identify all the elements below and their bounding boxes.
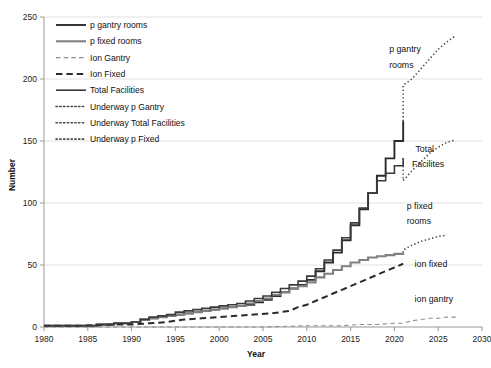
series-line <box>44 121 403 326</box>
chart-annotation: rooms <box>389 60 414 70</box>
chart-annotation: ion gantry <box>415 294 454 304</box>
series-line <box>403 235 447 252</box>
y-tick-label: 100 <box>23 198 37 208</box>
legend-label: p gantry rooms <box>90 20 147 30</box>
y-axis-title: Number <box>7 158 17 191</box>
x-tick-label: 2025 <box>429 334 448 344</box>
legend-label: Ion Gantry <box>90 53 131 63</box>
line-chart: 050100150200250 198019851990199520002005… <box>0 0 491 368</box>
x-tick-label: 2020 <box>385 334 404 344</box>
y-tick-label: 200 <box>23 74 37 84</box>
series-line <box>44 264 403 326</box>
legend-label: Ion Fixed <box>90 69 126 79</box>
chart-annotation: rooms <box>407 216 432 226</box>
x-tick-label: 2010 <box>297 334 316 344</box>
x-tick-label: 1985 <box>78 334 97 344</box>
y-tick-labels: 050100150200250 <box>23 12 37 332</box>
y-tick-label: 0 <box>32 322 37 332</box>
series-line <box>44 253 403 326</box>
x-tick-label: 1980 <box>35 334 54 344</box>
legend-label: p fixed rooms <box>90 36 142 46</box>
chart-annotation: p gantry <box>389 44 421 54</box>
legend: p gantry roomsp fixed roomsIon GantryIon… <box>45 15 225 153</box>
chart-annotation: Total <box>415 144 434 154</box>
x-tick-label: 2030 <box>473 334 491 344</box>
axes <box>40 17 482 331</box>
x-tick-labels: 1980198519901995200020052010201520202025… <box>35 334 491 344</box>
legend-label: Total Facilities <box>90 85 144 95</box>
x-tick-label: 2005 <box>254 334 273 344</box>
y-tick-label: 250 <box>23 12 37 22</box>
legend-label: Underway Total Facilities <box>90 118 185 128</box>
y-tick-label: 50 <box>28 260 38 270</box>
y-tick-label: 150 <box>23 136 37 146</box>
legend-label: Underway p Fixed <box>90 134 159 144</box>
chart-annotation: p fixed <box>407 201 433 211</box>
x-axis-title: Year <box>247 349 266 359</box>
x-tick-label: 1995 <box>166 334 185 344</box>
chart-annotation: Facilites <box>412 159 445 169</box>
legend-label: Underway p Gantry <box>90 102 165 112</box>
series-line <box>44 158 403 325</box>
x-tick-label: 2000 <box>210 334 229 344</box>
chart-annotation: ion fixed <box>415 259 448 269</box>
x-tick-label: 2015 <box>341 334 360 344</box>
chart-container: 050100150200250 198019851990199520002005… <box>0 0 491 368</box>
x-tick-label: 1990 <box>122 334 141 344</box>
